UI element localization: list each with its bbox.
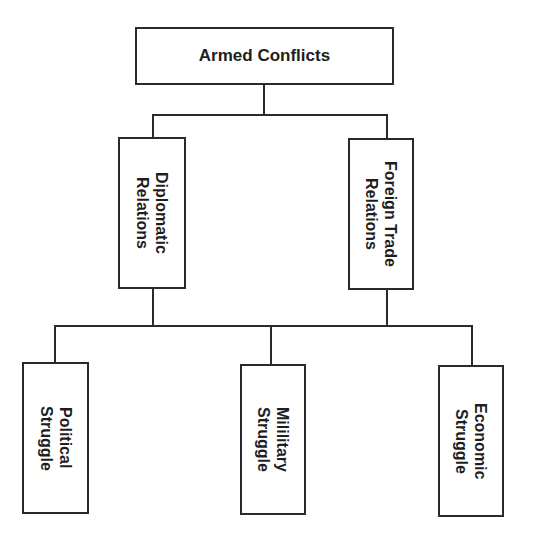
node-label: Economic Struggle [452,403,490,479]
node-economic-struggle: Economic Struggle [438,365,504,517]
connector-to-foreign-trade [386,114,388,139]
connector-middle-bar [152,114,388,116]
connector-diplomatic-down [152,289,154,326]
connector-foreign-trade-down [386,290,388,326]
node-label: Diplomatic Relations [133,172,171,254]
connector-to-political [54,325,56,363]
node-foreign-trade-relations: Foreign Trade Relations [348,138,414,290]
node-armed-conflicts: Armed Conflicts [135,27,394,85]
node-diplomatic-relations: Diplomatic Relations [118,137,186,289]
connector-to-economic [471,325,473,366]
connector-leaf-bar [54,325,473,327]
node-military-struggle: Mililitary Struggle [240,364,306,515]
connector-to-military [270,325,272,365]
connector-to-diplomatic [152,114,154,138]
connector-root-down [263,85,265,116]
node-label: Political Struggle [37,406,75,471]
node-political-struggle: Political Struggle [22,362,89,514]
node-label: Mililitary Struggle [254,407,292,472]
node-label: Armed Conflicts [199,46,330,66]
node-label: Foreign Trade Relations [362,161,400,267]
